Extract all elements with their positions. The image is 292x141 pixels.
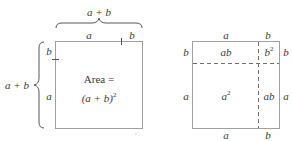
area-base: (a + b) (82, 92, 113, 104)
left-top-label-a: a (86, 30, 92, 41)
region-top-left: ab (221, 47, 232, 58)
right-left-label-a: a (183, 91, 189, 102)
region-top-right: b2 (265, 47, 274, 58)
right-bottom-label-b: b (265, 130, 271, 141)
region-bottom-left-exp: 2 (227, 89, 231, 97)
stray-dot (135, 133, 136, 134)
area-label-line2: (a + b)2 (82, 93, 117, 104)
left-side-label-a: a (46, 91, 52, 102)
region-bottom-left: a2 (222, 91, 231, 102)
left-brace (34, 42, 44, 128)
right-bottom-label-a: a (223, 130, 229, 141)
left-top-label-b: b (129, 30, 135, 41)
region-bottom-right: ab (264, 91, 275, 102)
right-right-label-a: a (283, 91, 289, 102)
right-top-label-a: a (223, 30, 229, 41)
left-square (56, 42, 143, 129)
right-left-label-b: b (183, 47, 189, 58)
right-right-label-b: b (283, 47, 289, 58)
left-side-label-b: b (46, 46, 52, 57)
left-brace-label: a + b (5, 80, 29, 91)
diagram-canvas (0, 0, 292, 140)
right-top-label-b: b (265, 30, 271, 41)
area-exp: 2 (113, 91, 117, 99)
top-brace-label: a + b (87, 7, 111, 18)
top-brace (56, 18, 142, 28)
area-label-line1: Area = (84, 74, 114, 85)
region-top-right-exp: 2 (270, 45, 274, 53)
